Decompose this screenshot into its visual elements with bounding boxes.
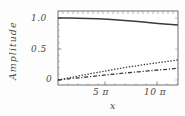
chart-figure: Amplitude x 1.0 0.5 0 5 π 10 π [0, 0, 185, 116]
y-tick-label-0: 0 [46, 75, 52, 84]
y-axis-title: Amplitude [8, 21, 18, 81]
frame-rect [58, 11, 178, 85]
y-tick-label-0.5: 0.5 [31, 45, 47, 54]
x-tick-label-10pi: 10 π [144, 88, 166, 97]
plot-frame [58, 11, 178, 85]
y-tick-label-1.0: 1.0 [31, 14, 47, 23]
x-axis-title: x [110, 101, 116, 111]
x-tick-label-5pi: 5 π [93, 88, 109, 97]
plot-canvas [0, 0, 185, 116]
